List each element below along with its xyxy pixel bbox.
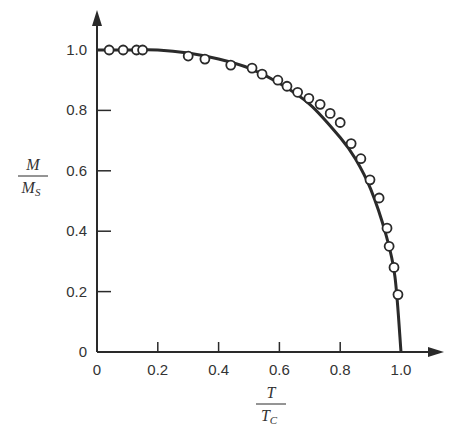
data-point-circle <box>105 46 114 55</box>
data-point-circle <box>248 64 257 73</box>
x-axis-label-subscript: C <box>270 414 278 426</box>
y-axis-label: MMS <box>18 156 48 198</box>
data-point-circle <box>385 242 394 251</box>
y-axis-label-subscript: S <box>35 186 41 198</box>
data-point-circle <box>316 100 325 109</box>
data-point-circle <box>283 82 292 91</box>
ticks: 00.20.40.60.81.000.20.40.60.81.0 <box>66 41 411 378</box>
x-tick-label: 0.6 <box>269 361 290 378</box>
data-point-circle <box>138 46 147 55</box>
data-point-circle <box>393 290 402 299</box>
data-point-circle <box>119 46 128 55</box>
data-point-circle <box>304 94 313 103</box>
data-point-circle <box>293 88 302 97</box>
x-tick-label: 0.8 <box>330 361 351 378</box>
x-tick-label: 0.4 <box>208 361 229 378</box>
y-tick-label: 0.6 <box>66 162 87 179</box>
data-point-circle <box>347 139 356 148</box>
data-point-circle <box>258 70 267 79</box>
y-tick-label: 0.8 <box>66 101 87 118</box>
theory-curve-line <box>97 50 401 352</box>
data-point-circle <box>390 263 399 272</box>
axis-labels: MMSTTC <box>18 156 286 426</box>
y-tick-label: 0.2 <box>66 283 87 300</box>
data-point-circle <box>200 55 209 64</box>
data-point-circle <box>356 154 365 163</box>
data-point-circle <box>326 109 335 118</box>
data-point-circle <box>184 52 193 61</box>
y-axis-label-denominator: MS <box>21 179 41 198</box>
magnetization-chart: 00.20.40.60.81.000.20.40.60.81.0 MMSTTC <box>0 0 458 441</box>
data-point-circle <box>365 175 374 184</box>
data-point-circle <box>273 76 282 85</box>
x-tick-label: 0.2 <box>147 361 168 378</box>
axes <box>92 10 444 357</box>
y-axis-label-numerator: M <box>25 156 41 173</box>
y-tick-label: 0.4 <box>66 222 87 239</box>
y-tick-label: 0 <box>79 343 87 360</box>
x-axis-label: TTC <box>256 384 286 426</box>
theory-curve <box>97 50 401 352</box>
x-axis-label-denominator: TC <box>261 407 278 426</box>
data-point-circle <box>375 193 384 202</box>
data-point-circle <box>226 61 235 70</box>
y-tick-label: 1.0 <box>66 41 87 58</box>
data-point-circle <box>383 224 392 233</box>
data-point-circle <box>336 118 345 127</box>
x-tick-label: 1.0 <box>391 361 412 378</box>
data-points <box>105 46 403 300</box>
x-axis-arrow-icon <box>428 347 444 357</box>
x-tick-label: 0 <box>93 361 101 378</box>
y-axis-arrow-icon <box>92 10 102 26</box>
x-axis-label-numerator: T <box>267 384 277 401</box>
